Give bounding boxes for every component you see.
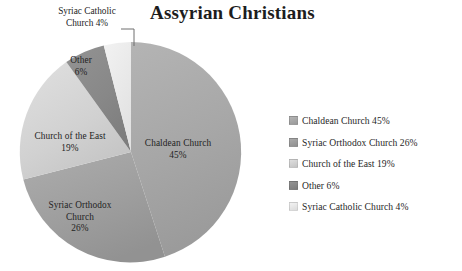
legend-item-church-of-the-east[interactable]: Church of the East 19% xyxy=(289,153,459,175)
legend-item-syriac-catholic-church[interactable]: Syriac Catholic Church 4% xyxy=(289,196,459,218)
legend-swatch-icon xyxy=(289,202,298,211)
legend-label: Church of the East 19% xyxy=(302,158,395,169)
legend-item-syriac-orthodox-church[interactable]: Syriac Orthodox Church 26% xyxy=(289,132,459,154)
slice-label-church-of-the-east: Church of the East 19% xyxy=(6,131,134,154)
slice-label-other: Other 6% xyxy=(56,55,106,78)
legend-swatch-icon xyxy=(289,159,298,168)
legend-item-other[interactable]: Other 6% xyxy=(289,175,459,197)
chart-legend: Chaldean Church 45% Syriac Orthodox Chur… xyxy=(289,110,459,218)
legend-swatch-icon xyxy=(289,181,298,190)
slice-label-syriac-orthodox-church: Syriac Orthodox Church 26% xyxy=(24,200,136,235)
slice-label-syriac-catholic-church: Syriac Catholic Church 4% xyxy=(38,6,136,29)
callout-leader-line xyxy=(120,26,164,48)
legend-label: Syriac Orthodox Church 26% xyxy=(302,137,418,148)
legend-item-chaldean-church[interactable]: Chaldean Church 45% xyxy=(289,110,459,132)
slice-label-chaldean-church: Chaldean Church 45% xyxy=(128,138,228,161)
legend-label: Syriac Catholic Church 4% xyxy=(302,201,409,212)
legend-swatch-icon xyxy=(289,138,298,147)
legend-label: Other 6% xyxy=(302,180,339,191)
legend-swatch-icon xyxy=(289,116,298,125)
chart-canvas: Assyrian Christians xyxy=(0,0,462,271)
legend-label: Chaldean Church 45% xyxy=(302,115,390,126)
